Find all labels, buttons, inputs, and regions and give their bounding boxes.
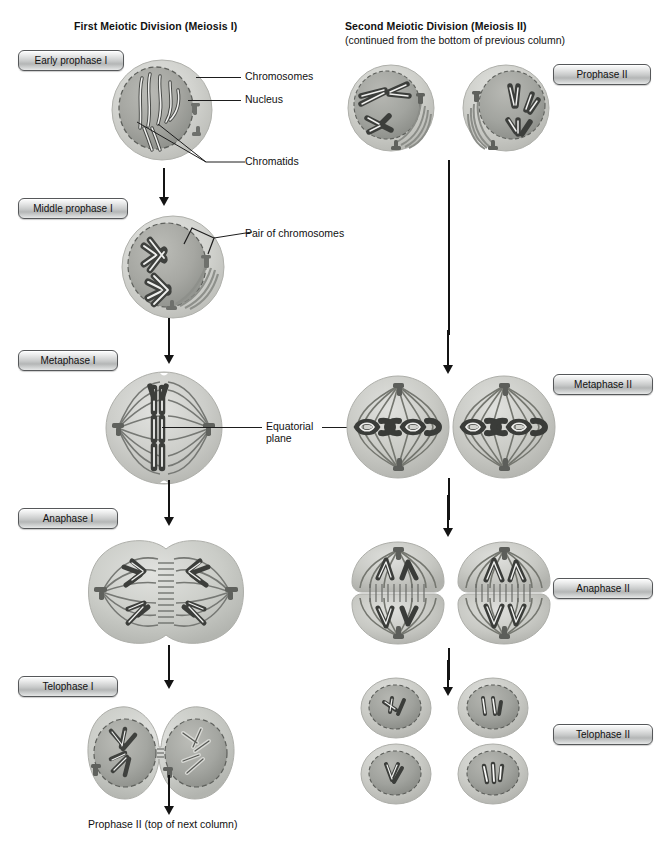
cell-telophase-ii-top-left [358, 676, 434, 740]
stage-label-anaphase-ii[interactable]: Anaphase II [553, 578, 653, 599]
right-column-heading: Second Meiotic Division (Meiosis II) [345, 20, 527, 33]
stage-label-telophase-ii[interactable]: Telophase II [553, 724, 653, 745]
stage-label-middle-prophase-i[interactable]: Middle prophase I [18, 198, 128, 219]
line-prophase-ii-to-metaphase-ii [448, 160, 450, 335]
cell-anaphase-ii-left [348, 538, 448, 648]
arrow-middle-prophase-to-metaphase-i [163, 318, 175, 364]
leader-line-chromatids [136, 120, 246, 165]
stage-label-prophase-ii[interactable]: Prophase II [553, 64, 651, 85]
leader-bracket-pair-of-chromosomes [182, 224, 252, 264]
stage-label-telophase-i[interactable]: Telophase I [18, 676, 118, 697]
stage-label-metaphase-ii[interactable]: Metaphase II [553, 374, 653, 395]
arrow-anaphase-to-telophase-i [163, 645, 175, 689]
cell-anaphase-i [82, 537, 250, 647]
cell-metaphase-i [102, 368, 226, 488]
cell-telophase-ii-top-right [455, 676, 531, 740]
callout-chromatids: Chromatids [245, 155, 299, 168]
cell-prophase-ii-left [345, 62, 437, 154]
cell-telophase-ii-bottom-right [455, 742, 531, 806]
cell-metaphase-ii-right [449, 372, 559, 482]
meiosis-diagram-page: First Meiotic Division (Meiosis I) Secon… [0, 0, 670, 850]
callout-chromosomes: Chromosomes [245, 70, 313, 83]
caption-prophase-ii-next-column: Prophase II (top of next column) [88, 818, 237, 830]
arrow-metaphase-to-anaphase-i [163, 480, 175, 526]
leader-line-nucleus [188, 100, 241, 101]
cell-anaphase-ii-right [454, 538, 554, 648]
arrow-prophase-ii-to-metaphase-ii [442, 330, 454, 374]
arrow-early-to-middle-prophase-i [158, 168, 170, 206]
arrow-telophase-i-to-next-column [163, 775, 175, 815]
cell-prophase-ii-right [460, 62, 552, 154]
stage-label-anaphase-i[interactable]: Anaphase I [18, 508, 118, 529]
cell-metaphase-ii-left [343, 372, 453, 482]
callout-equatorial-plane-line1: Equatorial [266, 420, 313, 433]
leader-line-equatorial-plane-left [162, 427, 262, 428]
callout-pair-of-chromosomes: Pair of chromosomes [245, 227, 344, 240]
right-column-subheading: (continued from the bottom of previous c… [345, 34, 565, 47]
callout-nucleus: Nucleus [245, 93, 283, 106]
arrow-metaphase-ii-to-anaphase-ii [442, 495, 454, 537]
callout-equatorial-plane-line2: plane [266, 432, 292, 445]
left-column-heading: First Meiotic Division (Meiosis I) [74, 20, 237, 33]
arrow-anaphase-ii-to-telophase-ii [442, 660, 454, 696]
leader-line-chromosomes [196, 77, 241, 78]
cell-telophase-ii-bottom-left [358, 742, 434, 806]
